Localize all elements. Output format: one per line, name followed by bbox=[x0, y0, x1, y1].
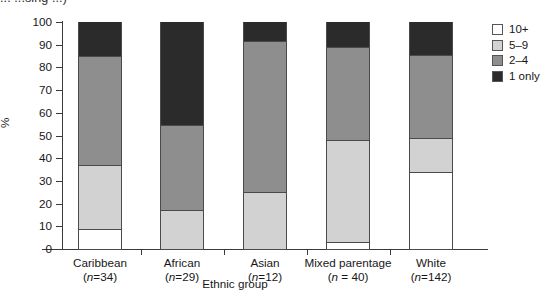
x-axis-title: Ethnic group bbox=[0, 277, 470, 290]
legend-swatch-icon bbox=[492, 40, 503, 51]
y-tick-mark bbox=[56, 90, 62, 91]
plot-area bbox=[63, 22, 467, 249]
y-tick-label: 100 bbox=[22, 16, 52, 28]
y-tick-label: 80 bbox=[22, 61, 52, 73]
legend-swatch-icon bbox=[492, 24, 503, 35]
legend-swatch-icon bbox=[492, 55, 503, 66]
y-tick-label: 50 bbox=[22, 130, 52, 142]
bar-segment[interactable] bbox=[326, 22, 370, 48]
legend-item[interactable]: 10+ bbox=[492, 22, 551, 38]
y-tick-label: 40 bbox=[22, 152, 52, 164]
stacked-bar[interactable] bbox=[326, 22, 370, 249]
x-tick-mark bbox=[390, 250, 391, 255]
stacked-bar[interactable] bbox=[78, 22, 122, 249]
bar-segment[interactable] bbox=[78, 22, 122, 57]
y-tick-mark bbox=[56, 67, 62, 68]
bar-segment[interactable] bbox=[160, 22, 204, 126]
bar-segment[interactable] bbox=[326, 242, 370, 250]
y-tick-label: 60 bbox=[22, 107, 52, 119]
legend-item[interactable]: 5–9 bbox=[492, 38, 551, 54]
bar-segment[interactable] bbox=[160, 125, 204, 211]
bar-segment[interactable] bbox=[243, 41, 287, 193]
y-tick-mark bbox=[56, 22, 62, 23]
bar-segment[interactable] bbox=[326, 47, 370, 141]
y-tick-label: 90 bbox=[22, 39, 52, 51]
clipped-chart-title: ... ...sing ...) bbox=[0, 0, 200, 7]
stacked-bar[interactable] bbox=[409, 22, 453, 249]
y-tick-mark bbox=[56, 181, 62, 182]
bar-segment[interactable] bbox=[78, 56, 122, 166]
x-tick-mark bbox=[307, 250, 308, 255]
bar-segment[interactable] bbox=[243, 22, 287, 42]
stacked-bar[interactable] bbox=[243, 22, 287, 249]
bar-segment[interactable] bbox=[326, 140, 370, 243]
legend-label: 5–9 bbox=[509, 40, 528, 52]
bar-segment[interactable] bbox=[78, 165, 122, 230]
chart-legend: 10+5–92–41 only bbox=[492, 22, 551, 84]
bar-segment[interactable] bbox=[160, 210, 204, 250]
y-tick-mark bbox=[56, 158, 62, 159]
bar-segment[interactable] bbox=[243, 192, 287, 250]
bar-segment[interactable] bbox=[409, 22, 453, 56]
y-tick-label: 70 bbox=[22, 84, 52, 96]
y-tick-mark bbox=[56, 136, 62, 137]
bar-segment[interactable] bbox=[409, 172, 453, 250]
y-tick-label: 0 bbox=[22, 243, 52, 255]
y-tick-label: 30 bbox=[22, 175, 52, 187]
bar-segment[interactable] bbox=[409, 138, 453, 173]
bar-segment[interactable] bbox=[78, 229, 122, 250]
legend-label: 1 only bbox=[509, 71, 540, 83]
y-tick-mark bbox=[56, 249, 62, 250]
stacked-bar[interactable] bbox=[160, 22, 204, 249]
legend-swatch-icon bbox=[492, 71, 503, 82]
x-tick-mark bbox=[224, 250, 225, 255]
x-category-name: White bbox=[416, 256, 446, 269]
y-tick-mark bbox=[56, 113, 62, 114]
y-axis-title: % bbox=[0, 118, 11, 128]
y-tick-mark bbox=[56, 226, 62, 227]
legend-label: 2–4 bbox=[509, 55, 528, 67]
bar-segment[interactable] bbox=[409, 55, 453, 139]
y-tick-label: 10 bbox=[22, 220, 52, 232]
y-tick-mark bbox=[56, 204, 62, 205]
legend-label: 10+ bbox=[509, 24, 529, 36]
x-tick-mark bbox=[141, 250, 142, 255]
y-tick-label: 20 bbox=[22, 198, 52, 210]
legend-item[interactable]: 1 only bbox=[492, 69, 551, 85]
y-tick-mark bbox=[56, 45, 62, 46]
legend-item[interactable]: 2–4 bbox=[492, 53, 551, 69]
